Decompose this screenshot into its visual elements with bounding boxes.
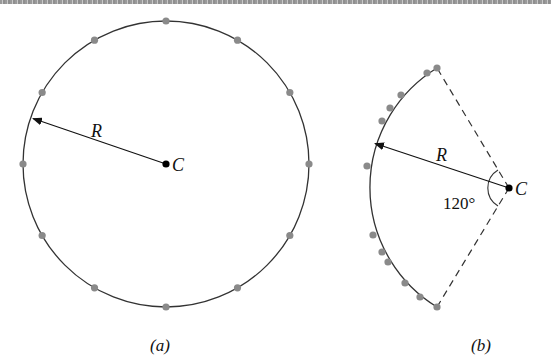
center-point — [162, 160, 169, 167]
sector-arc — [370, 68, 437, 307]
caption-b: (b) — [471, 336, 491, 355]
panel-a: R C (a) — [19, 17, 312, 355]
center-label: C — [172, 155, 185, 175]
angle-arc — [488, 170, 498, 206]
center-label-b: C — [515, 179, 528, 199]
radius-label: R — [90, 121, 102, 141]
circle-dot — [39, 89, 46, 96]
sector-edge-top — [437, 68, 509, 188]
caption-a: (a) — [150, 336, 170, 355]
circle-dot — [19, 160, 26, 167]
circle-dot — [286, 232, 293, 239]
circle-dot — [162, 17, 169, 24]
panel-b: R C 120° (b) — [363, 64, 528, 355]
circle-dot — [162, 303, 169, 310]
circle-dot — [91, 37, 98, 44]
circle-dot — [305, 160, 312, 167]
circle-dot — [286, 89, 293, 96]
circle-dot — [234, 284, 241, 291]
circle-dot — [91, 284, 98, 291]
radius-label-b: R — [435, 145, 447, 165]
circle-dot — [39, 232, 46, 239]
sector-dots — [363, 64, 440, 310]
angle-label: 120° — [443, 194, 475, 213]
diagram-canvas: R C (a) R C 120° (b) — [0, 0, 551, 358]
circle-dot — [234, 37, 241, 44]
center-point-b — [505, 184, 512, 191]
